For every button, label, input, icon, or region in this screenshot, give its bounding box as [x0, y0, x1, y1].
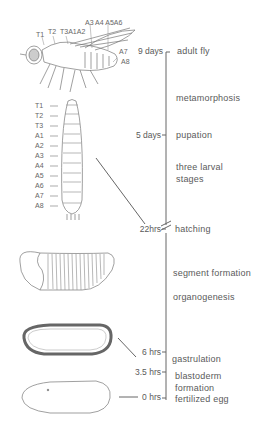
time-5-days: 5 days	[136, 130, 161, 140]
time-6-hrs: 6 hrs	[142, 347, 161, 357]
larva-segment-a1: A1	[35, 132, 44, 140]
stage-blastoderm: blastoderm	[175, 371, 222, 381]
fly-segment-t3a1a2: T3A1A2	[60, 28, 85, 36]
segmented-embryo-illustration	[20, 252, 114, 290]
larva-segment-a3: A3	[35, 152, 44, 160]
fertilized-egg-illustration	[22, 381, 110, 413]
stage-hatching: hatching	[175, 224, 211, 234]
larva-segment-a6: A6	[35, 182, 44, 190]
larva-segment-t1: T1	[35, 102, 43, 110]
interval-organogenesis: organogenesis	[173, 292, 235, 302]
fly-segment-a7: A7	[119, 48, 128, 56]
fly-segment-t2: T2	[48, 28, 56, 36]
fly-segment-a3-a6: A3 A4 A5A6	[85, 19, 122, 27]
stage-gastrulation: gastrulation	[172, 354, 221, 364]
time-0-hrs: 0 hrs	[142, 392, 161, 402]
fly-segment-a8: A8	[121, 58, 130, 66]
interval-segment-formation: segment formation	[173, 268, 251, 278]
larva-segment-t2: T2	[35, 112, 43, 120]
time-22hrs: 22hrs	[140, 224, 161, 234]
stage-fertilized-egg: fertilized egg	[175, 394, 229, 404]
larva-segment-a8: A8	[35, 202, 44, 210]
blastoderm-embryo-illustration	[24, 325, 111, 354]
larva-segment-t3: T3	[35, 122, 43, 130]
larva-segment-a4: A4	[35, 162, 44, 170]
larva-segment-a5: A5	[35, 172, 44, 180]
interval-three-larval-stages: three larval	[176, 162, 223, 172]
stage-blastoderm-formation: formation	[175, 383, 214, 393]
larva-segment-a7: A7	[35, 192, 44, 200]
stage-adult-fly: adult fly	[177, 46, 210, 56]
time-3-5-hrs: 3.5 hrs	[135, 367, 161, 377]
fly-segment-t1: T1	[36, 31, 44, 39]
larva-illustration	[50, 100, 82, 221]
stage-pupation: pupation	[176, 130, 212, 140]
interval-three-larval-stages-2: stages	[176, 174, 204, 184]
interval-metamorphosis: metamorphosis	[176, 93, 240, 103]
time-9-days: 9 days	[138, 46, 163, 56]
larva-segment-a2: A2	[35, 142, 44, 150]
